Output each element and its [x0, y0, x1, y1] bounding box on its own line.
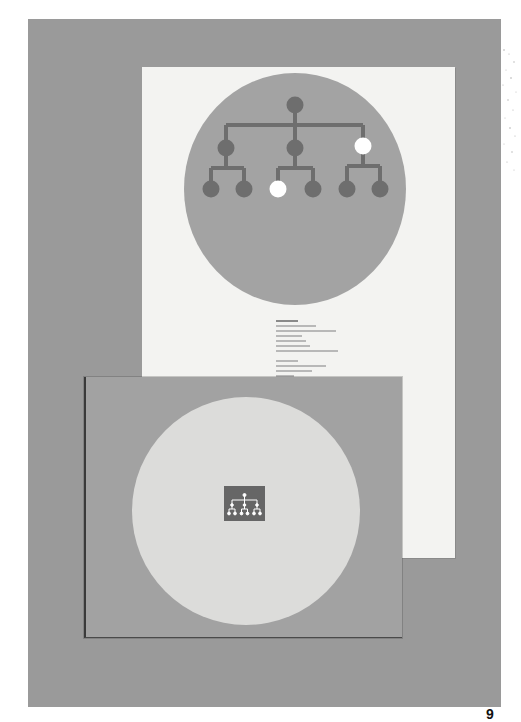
caption-line	[276, 345, 310, 347]
org-chart-icon-square	[224, 486, 265, 521]
caption-line	[276, 340, 306, 342]
node	[218, 140, 235, 157]
node	[305, 181, 322, 198]
node	[339, 181, 356, 198]
caption-line	[276, 320, 298, 322]
page-number: 9	[486, 706, 494, 722]
caption-line	[276, 330, 336, 332]
highlight-node	[270, 181, 287, 198]
caption-line	[276, 325, 316, 327]
caption-line	[276, 335, 302, 337]
gray-card	[84, 377, 402, 638]
caption-line	[276, 360, 298, 362]
caption-line	[276, 365, 326, 367]
root-node	[287, 97, 304, 114]
node	[372, 181, 389, 198]
caption-line	[276, 370, 312, 372]
node	[287, 140, 304, 157]
node	[203, 181, 220, 198]
highlight-node	[355, 138, 372, 155]
org-chart-icon	[224, 486, 265, 521]
node	[236, 181, 253, 198]
caption-line	[276, 350, 338, 352]
